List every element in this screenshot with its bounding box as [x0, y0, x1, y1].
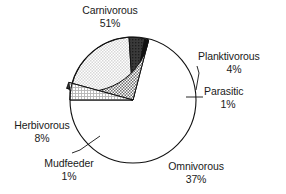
- pie-label-planktivorous-percent: 4%: [198, 63, 270, 76]
- pie-label-parasitic: Parasitic 1%: [204, 85, 284, 110]
- pie-label-omnivorous-name: Omnivorous: [150, 160, 242, 173]
- pie-chart-figure: Carnivorous 51% Planktivorous 4% Parasit…: [0, 0, 286, 194]
- pie-label-omnivorous: Omnivorous 37%: [150, 160, 242, 185]
- pie-label-carnivorous-name: Carnivorous: [56, 4, 164, 17]
- pie-label-omnivorous-percent: 37%: [150, 173, 242, 186]
- pie-label-herbivorous-name: Herbivorous: [2, 119, 82, 132]
- pie-label-carnivorous: Carnivorous 51%: [56, 4, 164, 29]
- pie-label-herbivorous-percent: 8%: [2, 132, 82, 145]
- pie-label-carnivorous-percent: 51%: [56, 17, 164, 30]
- pie-label-mudfeeder: Mudfeeder 1%: [26, 157, 112, 182]
- pie-label-herbivorous: Herbivorous 8%: [2, 119, 82, 144]
- pie-label-parasitic-percent: 1%: [204, 98, 252, 111]
- pie-label-planktivorous: Planktivorous 4%: [198, 50, 286, 75]
- pie-label-mudfeeder-percent: 1%: [26, 170, 112, 183]
- pie-label-mudfeeder-name: Mudfeeder: [26, 157, 112, 170]
- pie-label-parasitic-name: Parasitic: [204, 85, 284, 98]
- pie-label-planktivorous-name: Planktivorous: [198, 50, 286, 63]
